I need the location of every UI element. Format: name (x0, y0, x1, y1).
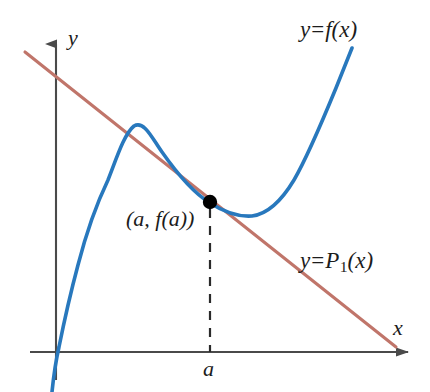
plot-canvas (0, 0, 430, 392)
curve-label-function: f(x) (325, 17, 357, 42)
x-tick-label-a: a (203, 358, 214, 380)
tangency-point-marker (203, 195, 217, 209)
curve-label-equals: = (310, 17, 325, 42)
y-axis-label: y (68, 27, 78, 49)
tangent-equation-label: y=P1(x) (300, 249, 373, 275)
x-axis-label: x (393, 317, 403, 339)
tangency-point-label: (a, f(a)) (126, 208, 194, 230)
linear-approximation-figure: y=f(x) y=P1(x) (a, f(a)) y x a (0, 0, 430, 392)
line-label-equals: = (310, 248, 325, 273)
line-label-y: y (300, 248, 310, 273)
curve-label-y: y (300, 17, 310, 42)
line-label-function-subscript: 1 (339, 258, 347, 275)
curve-equation-label: y=f(x) (300, 18, 357, 41)
function-curve (52, 48, 352, 392)
line-label-function-arg: (x) (348, 248, 374, 273)
line-label-function-base: P (325, 248, 339, 273)
